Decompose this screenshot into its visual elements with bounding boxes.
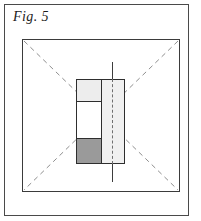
stack-cell-top xyxy=(77,80,101,102)
center-line-bottom-tail xyxy=(112,163,113,182)
figure-label: Fig. 5 xyxy=(13,9,49,25)
center-assembly xyxy=(76,79,125,164)
left-stack xyxy=(77,80,102,163)
figure-page: Fig. 5 xyxy=(0,0,201,221)
center-line-dashed-segment xyxy=(112,79,113,164)
right-panel xyxy=(102,80,124,163)
stack-cell-middle xyxy=(77,102,101,139)
center-line-top-tail xyxy=(112,62,113,80)
stack-cell-bottom xyxy=(77,139,101,163)
